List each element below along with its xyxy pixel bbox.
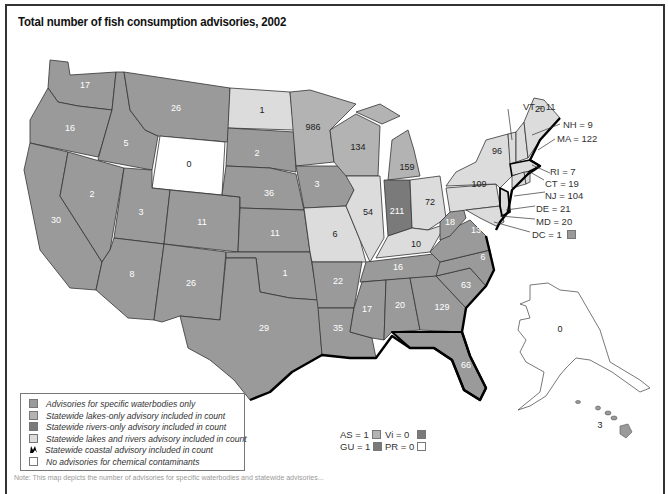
label-wy: 0 <box>186 159 191 169</box>
legend-item-coastal: Statewide coastal advisory included in c… <box>29 444 244 456</box>
label-wv: 18 <box>445 217 455 227</box>
territory-pr: PR = 0 <box>385 441 430 452</box>
callout-nj: NJ = 104 <box>545 190 583 201</box>
label-mo: 6 <box>332 229 337 239</box>
label-ks: 11 <box>270 228 279 238</box>
label-ok: 1 <box>282 268 287 278</box>
legend-label: Advisories for specific waterbodies only <box>46 398 195 409</box>
state-ak <box>518 283 650 410</box>
callout-vt: VT = 11 <box>523 101 556 112</box>
label-nd: 1 <box>259 105 264 115</box>
label-ia: 3 <box>314 179 319 189</box>
territories-key: AS = 1 Vi = 0 GU = 1 PR = 0 <box>340 428 430 452</box>
legend-swatch <box>29 434 38 443</box>
territory-swatch <box>417 430 426 439</box>
legend-label: Statewide lakes and rivers advisory incl… <box>46 433 247 444</box>
label-il: 54 <box>363 207 373 217</box>
territory-label: AS = 1 <box>340 429 369 440</box>
label-nc: 6 <box>480 252 485 262</box>
label-sd: 2 <box>254 148 259 158</box>
callout-ct: CT = 19 <box>545 178 579 189</box>
territory-swatch <box>417 442 426 451</box>
label-tn: 16 <box>393 262 403 272</box>
legend-swatch <box>29 457 38 466</box>
label-mn: 986 <box>305 122 320 132</box>
territory-label: Vi = 0 <box>385 429 409 440</box>
legend-item-none: No advisories for chemical contaminants <box>29 456 244 468</box>
label-al: 20 <box>395 300 405 310</box>
legend-swatch <box>29 399 38 408</box>
label-az: 8 <box>129 269 134 279</box>
label-ut: 3 <box>138 207 143 217</box>
territory-label: PR = 0 <box>385 441 414 452</box>
callout-ma: MA = 122 <box>557 133 597 144</box>
label-mt: 26 <box>171 103 181 113</box>
label-ga: 129 <box>434 302 449 312</box>
label-mi: 159 <box>399 162 414 172</box>
label-oh: 72 <box>425 197 435 207</box>
label-ny: 96 <box>492 146 502 156</box>
territory-gu: GU = 1 <box>340 441 385 452</box>
callout-md: MD = 20 <box>536 216 572 227</box>
legend-swatch <box>29 411 38 420</box>
label-pa: 109 <box>471 179 486 189</box>
legend-item-rivers-only: Statewide rivers-only advisory included … <box>29 421 244 433</box>
legend-item-lakes-only: Statewide lakes-only advisory included i… <box>29 410 244 422</box>
label-nm: 26 <box>186 278 196 288</box>
dc-swatch <box>567 230 576 239</box>
legend: Advisories for specific waterbodies only… <box>20 393 245 471</box>
label-ky: 10 <box>411 239 421 249</box>
territory-label: GU = 1 <box>340 441 370 452</box>
footnote: Note: This map depicts the number of adv… <box>14 474 324 481</box>
label-tx: 29 <box>259 323 269 333</box>
callout-de: DE = 21 <box>536 203 571 214</box>
coastal-line-icon <box>29 445 38 454</box>
callout-dc-label: DC = 1 <box>532 229 562 240</box>
territory-vi: Vi = 0 <box>385 429 430 440</box>
label-ms: 17 <box>362 304 372 314</box>
label-id: 5 <box>123 138 128 148</box>
callout-ri: RI = 7 <box>550 166 576 177</box>
label-la: 35 <box>333 323 343 333</box>
callout-dc: DC = 1 <box>532 229 584 240</box>
legend-item-lakes-and-rivers: Statewide lakes and rivers advisory incl… <box>29 433 244 445</box>
state-sd <box>226 128 296 172</box>
legend-label: Statewide coastal advisory included in c… <box>45 444 213 455</box>
label-hi: 3 <box>597 420 602 430</box>
label-co: 11 <box>197 217 206 227</box>
label-sc: 63 <box>461 280 471 290</box>
territory-as: AS = 1 <box>340 429 385 440</box>
label-in: 211 <box>390 206 404 216</box>
label-ne: 36 <box>264 188 274 198</box>
label-nv: 2 <box>89 189 94 199</box>
callout-nh: NH = 9 <box>563 119 593 130</box>
state-fl <box>392 332 486 400</box>
legend-item-specific-waterbodies: Advisories for specific waterbodies only <box>29 398 244 410</box>
legend-label: Statewide lakes-only advisory included i… <box>46 410 225 421</box>
label-wa: 17 <box>80 80 90 90</box>
legend-swatch <box>29 422 38 431</box>
label-wi: 134 <box>350 142 365 152</box>
label-ak: 0 <box>557 324 562 334</box>
territory-swatch <box>372 430 381 439</box>
label-ca: 30 <box>51 215 61 225</box>
label-fl: 66 <box>461 360 471 370</box>
state-hi <box>576 401 633 439</box>
label-or: 16 <box>65 123 75 133</box>
legend-label: Statewide rivers-only advisory included … <box>46 421 226 432</box>
label-ar: 22 <box>333 276 343 286</box>
label-va: 13 <box>471 225 481 235</box>
territory-swatch <box>373 442 382 451</box>
legend-label: No advisories for chemical contaminants <box>46 456 199 467</box>
